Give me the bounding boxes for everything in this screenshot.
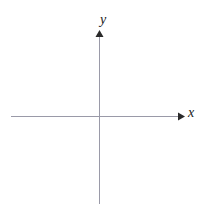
- x-axis-label: x: [188, 106, 194, 120]
- x-axis-arrowhead-icon: [178, 113, 185, 121]
- coordinate-axes-figure: x y: [0, 0, 208, 217]
- y-axis-label: y: [100, 13, 106, 27]
- axes-drawing: [0, 0, 208, 217]
- y-axis-arrowhead-icon: [96, 30, 104, 37]
